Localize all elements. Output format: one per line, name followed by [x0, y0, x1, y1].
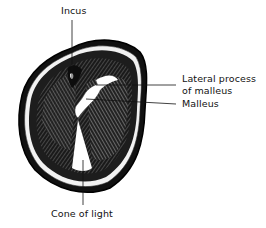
label-incus: Incus	[61, 5, 87, 16]
label-lateral-process-line1: Lateral process	[182, 73, 256, 84]
tympanic-membrane-illustration	[0, 0, 266, 228]
label-lateral-process-line2: of malleus	[182, 85, 232, 96]
label-cone-of-light: Cone of light	[51, 208, 113, 219]
label-malleus: Malleus	[182, 98, 219, 109]
